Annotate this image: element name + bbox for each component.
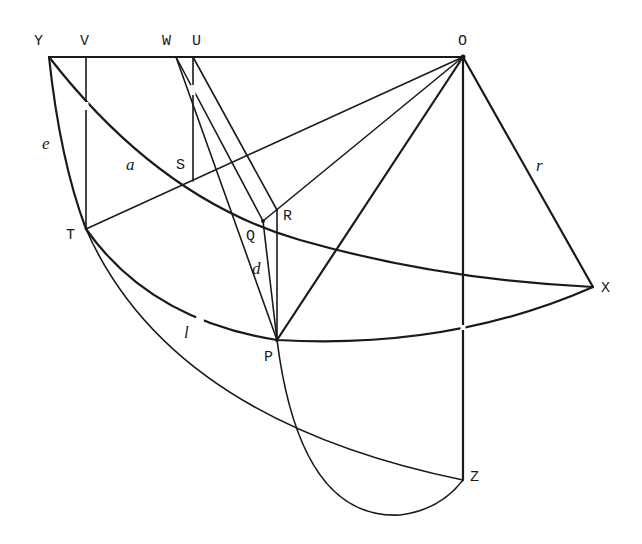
arc-PZ <box>277 340 463 515</box>
line-WQ <box>176 57 263 221</box>
line-UR <box>193 57 277 210</box>
label-R: R <box>283 209 292 224</box>
line-QO <box>263 57 463 221</box>
construction-svg <box>0 0 642 544</box>
arc-e-lower <box>86 229 463 480</box>
gap-l <box>196 318 204 320</box>
label-e: e <box>42 135 50 152</box>
label-O: O <box>458 34 467 49</box>
label-Q: Q <box>246 229 255 244</box>
line-WP <box>176 57 277 340</box>
point-P-dot <box>275 338 279 342</box>
arc-e-upper <box>49 57 86 229</box>
label-W: W <box>162 34 171 49</box>
label-V: V <box>80 34 89 49</box>
label-Z: Z <box>470 470 479 485</box>
point-Q-dot <box>261 219 265 223</box>
point-O-dot <box>461 55 466 60</box>
label-T: T <box>66 228 75 243</box>
label-Y: Y <box>34 34 43 49</box>
label-d: d <box>252 260 261 277</box>
line-OX <box>463 57 593 287</box>
label-U: U <box>192 34 201 49</box>
label-l: l <box>184 324 189 341</box>
label-S: S <box>176 158 185 173</box>
label-r: r <box>536 157 543 174</box>
label-X: X <box>601 281 610 296</box>
label-a: a <box>126 156 135 173</box>
label-P: P <box>264 350 273 365</box>
diagram-canvas: Y V W U O S R Q T X P Z e a d l r <box>0 0 642 544</box>
